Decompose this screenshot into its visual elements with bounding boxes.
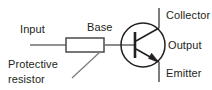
protective-resistor-leader-line — [72, 52, 100, 78]
protective-resistor-symbol — [66, 38, 104, 52]
label-input: Input — [20, 23, 45, 35]
label-protective-resistor: Protective resistor — [8, 58, 58, 85]
collector-lead — [136, 28, 159, 41]
label-emitter: Emitter — [166, 67, 202, 79]
label-base: Base — [87, 21, 112, 33]
label-protective-resistor-line2: resistor — [8, 73, 58, 85]
emitter-arrowhead-icon — [149, 53, 160, 62]
circuit-diagram: Input Base Collector Output Emitter Prot… — [0, 0, 212, 90]
label-collector: Collector — [166, 9, 210, 21]
label-output: Output — [168, 39, 202, 51]
label-protective-resistor-line1: Protective — [8, 58, 58, 70]
